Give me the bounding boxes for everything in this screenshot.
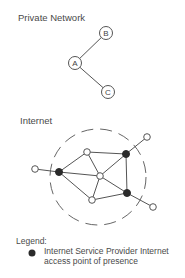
isp-node-top-right: [123, 151, 130, 158]
svg-text:B: B: [103, 29, 108, 38]
router-node-bottom: [89, 197, 96, 204]
isp-node-bottom-right: [124, 190, 131, 197]
external-node-left: [32, 166, 39, 173]
isp-node-left: [56, 169, 63, 176]
private-network-node-c: C: [102, 86, 115, 99]
filled-circle-icon: [29, 250, 36, 257]
router-node-top: [84, 149, 91, 156]
external-node-top-right: [144, 134, 151, 141]
legend-title: Legend:: [16, 236, 47, 246]
router-node-center: [97, 173, 104, 180]
svg-text:C: C: [105, 88, 111, 97]
private-network-node-b: B: [100, 27, 113, 40]
private-network-node-a: A: [69, 57, 82, 70]
external-node-bottom-right: [150, 204, 157, 211]
svg-text:A: A: [72, 59, 78, 68]
legend-item-isp: Internet Service Provider Internet acces…: [44, 246, 184, 266]
